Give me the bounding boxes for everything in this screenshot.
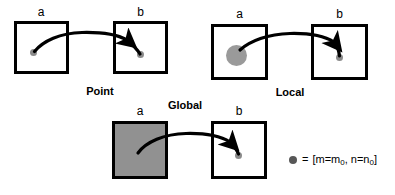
global-box-a	[112, 121, 168, 179]
global-box-b	[211, 121, 267, 179]
legend-expression-open: [m=m	[312, 153, 340, 165]
global-box-b-letter: b	[211, 105, 267, 117]
point-box-a-letter: a	[14, 6, 68, 18]
point-box-b-letter: b	[113, 6, 168, 18]
panel-local-label: Local	[258, 87, 322, 98]
point-source-dot	[30, 49, 37, 56]
point-box-b	[113, 21, 168, 74]
local-box-b	[311, 24, 368, 80]
legend-expression-mid: , n=n	[345, 153, 370, 165]
point-target-dot	[137, 51, 144, 58]
legend-equals: =	[302, 153, 308, 165]
legend-subscript-2: 0	[369, 158, 373, 167]
legend: =[m=m0, n=n0]	[289, 154, 377, 166]
legend-expression-close: ]	[374, 153, 377, 165]
local-source-blob	[226, 45, 247, 66]
local-target-dot	[336, 54, 343, 61]
legend-filled-circle-icon	[289, 156, 297, 164]
legend-subscript-1: 0	[340, 158, 344, 167]
local-box-b-letter: b	[311, 8, 368, 20]
panel-global-label: Global	[153, 100, 217, 111]
local-box-a-letter: a	[211, 8, 268, 20]
diagram-figure: a b Point a b Local a b Global	[0, 0, 395, 195]
panel-point-label: Point	[68, 86, 132, 97]
point-box-a	[14, 21, 69, 74]
legend-text: =[m=m0, n=n0]	[302, 154, 377, 166]
global-target-dot	[235, 152, 242, 159]
